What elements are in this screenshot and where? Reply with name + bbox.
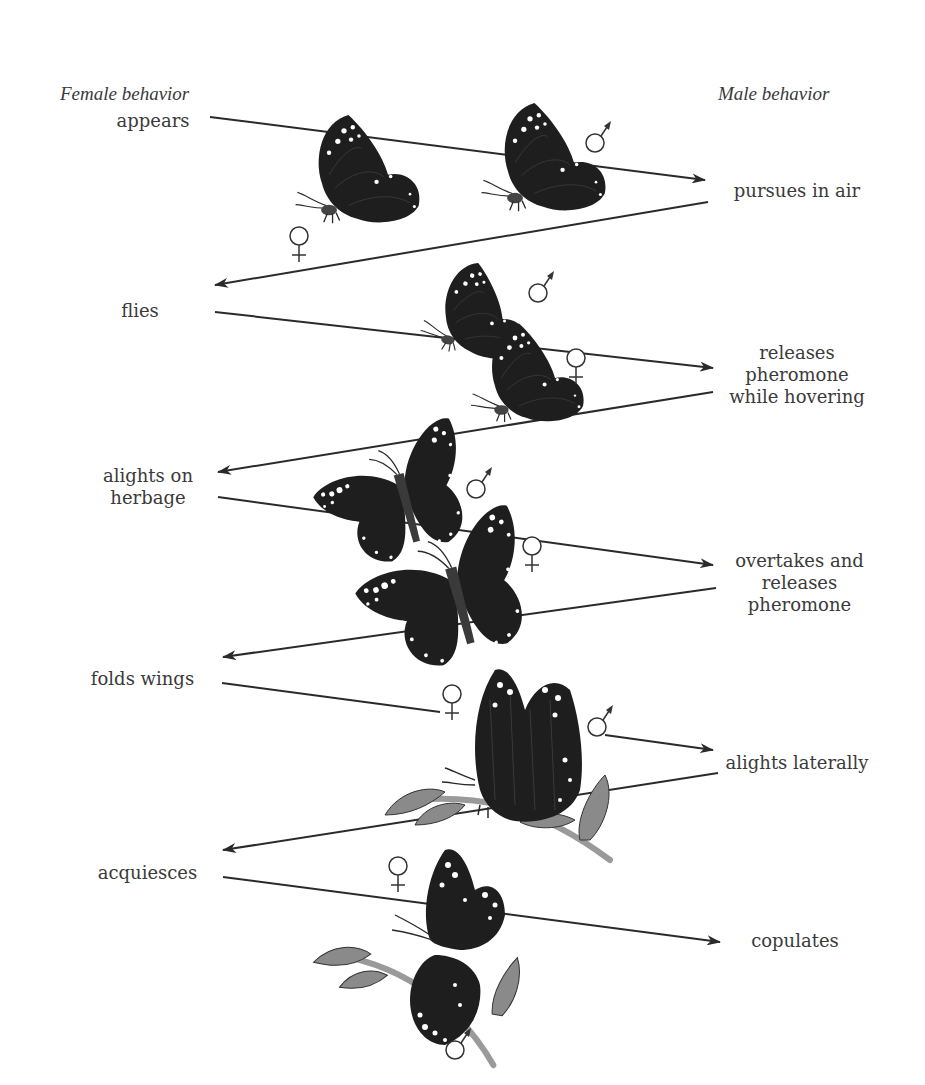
butterfly-female-stage5 xyxy=(426,849,505,950)
arrow-male-to-alights-laterally xyxy=(605,735,713,750)
male-symbol-stage2 xyxy=(529,271,554,302)
female-symbol-stage2 xyxy=(567,349,585,384)
male-symbol-stage4 xyxy=(588,705,613,736)
arrow-appears-to-pursues xyxy=(210,117,705,180)
female-symbol-stage4 xyxy=(443,685,461,720)
butterfly-male-stage1 xyxy=(482,103,606,211)
courtship-diagram: Female behavior Male behavior appears fl… xyxy=(0,0,925,1085)
male-symbol-stage1 xyxy=(586,121,611,152)
female-symbol-stage3 xyxy=(523,537,541,572)
female-symbol-stage1 xyxy=(290,227,308,262)
antennae-stage5 xyxy=(392,915,432,940)
butterfly-male-stage3 xyxy=(302,417,482,577)
female-symbol-stage5 xyxy=(389,857,407,892)
diagram-graphics xyxy=(0,0,925,1085)
arrow-releases-to-alights-on-herbage xyxy=(218,392,713,472)
line-folds-wings-to-female xyxy=(222,683,440,712)
male-symbol-stage3 xyxy=(467,467,492,498)
